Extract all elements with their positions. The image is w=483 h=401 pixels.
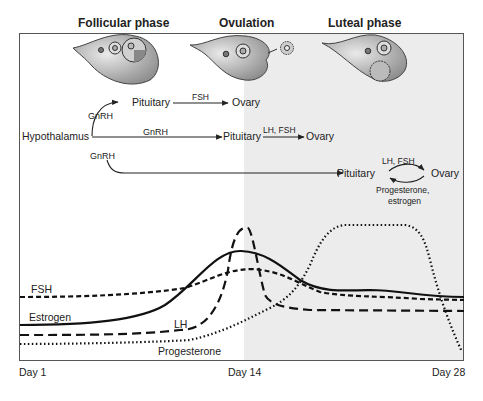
gnrh-label-bottom: GnRH bbox=[90, 151, 115, 161]
hormone-label-lh-fsh-3: LH, FSH bbox=[382, 156, 415, 166]
gnrh-label-middle: GnRH bbox=[143, 127, 168, 137]
curve-label-lh: LH bbox=[174, 318, 187, 330]
ovary-follicular-illustration bbox=[73, 35, 158, 84]
pituitary-label-1: Pituitary bbox=[132, 96, 170, 108]
pituitary-label-3: Pituitary bbox=[337, 167, 375, 179]
gnrh-label-top: GnRH bbox=[88, 111, 113, 121]
phase-label-luteal: Luteal phase bbox=[328, 16, 401, 30]
ovary-label-2: Ovary bbox=[306, 130, 334, 142]
hormone-label-lh-fsh-2: LH, FSH bbox=[263, 125, 296, 135]
feedback-label-line2: estrogen bbox=[388, 196, 421, 206]
curve-label-estrogen: Estrogen bbox=[29, 311, 71, 323]
x-tick-day14: Day 14 bbox=[228, 366, 261, 378]
phase-label-follicular: Follicular phase bbox=[78, 16, 169, 30]
hormone-label-fsh: FSH bbox=[192, 92, 209, 102]
hypothalamus-label: Hypothalamus bbox=[22, 130, 89, 142]
ovary-label-3: Ovary bbox=[431, 167, 459, 179]
pituitary-label-2: Pituitary bbox=[223, 130, 261, 142]
feedback-label-line1: Progesterone, bbox=[376, 185, 429, 195]
x-tick-day1: Day 1 bbox=[19, 366, 46, 378]
ovary-label-1: Ovary bbox=[232, 96, 260, 108]
curve-label-progesterone: Progesterone bbox=[158, 345, 221, 357]
phase-label-ovulation: Ovulation bbox=[219, 16, 274, 30]
curve-label-fsh: FSH bbox=[31, 283, 52, 295]
x-tick-day28: Day 28 bbox=[432, 366, 465, 378]
